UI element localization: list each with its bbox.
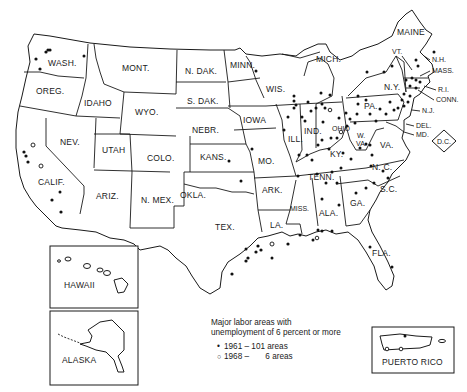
hawaii-label: HAWAII (64, 280, 95, 290)
legend-count: 101 areas (251, 342, 287, 351)
legend-item-1968: ○1968 – 6 areas (211, 352, 341, 362)
legend-separator: – (245, 342, 250, 351)
state-label-wi: WIS. (266, 84, 285, 94)
state-label-de: DEL. (416, 122, 432, 129)
state-label-ms: MISS. (290, 205, 309, 212)
state-label-mi: MICH. (316, 54, 341, 64)
state-label-tn: TENN. (308, 172, 335, 182)
legend-heading-line1: Major labor areas with (211, 318, 341, 328)
state-label-or: OREG. (36, 86, 64, 96)
state-label-pa: PA. (364, 101, 378, 111)
state-label-mn: MINN. (230, 60, 255, 70)
state-label-va: VA. (380, 140, 394, 150)
state-label-wy: WYO. (135, 107, 158, 117)
legend-count: 6 areas (251, 352, 292, 361)
state-label-ks: KANS. (200, 152, 227, 162)
legend-heading-line2: unemployment of 6 percent or more (211, 328, 341, 338)
state-label-sc: S.C. (380, 184, 397, 194)
state-label-ar: ARK. (262, 185, 283, 195)
state-label-ga: GA. (350, 198, 365, 208)
legend-item-1961: •1961 – 101 areas (211, 342, 341, 352)
state-label-wv: W. (357, 132, 365, 139)
state-label-id: IDAHO (84, 98, 112, 108)
state-label-md: MD. (416, 131, 429, 138)
state-label-ne: NEBR. (192, 125, 219, 135)
state-label-ct: CONN. (436, 96, 459, 103)
state-label-wa: WASH. (48, 58, 77, 68)
state-label-fl: FLA. (372, 248, 391, 258)
legend-separator: – (245, 352, 250, 361)
state-label-co: COLO. (147, 153, 174, 163)
state-label-nd: N. DAK. (185, 66, 217, 76)
legend-year: 1961 (224, 342, 242, 351)
state-label-sd: S. DAK. (187, 96, 219, 106)
legend-year: 1968 (224, 352, 242, 361)
state-label-al: ALA. (319, 208, 338, 218)
state-label-la: LA. (270, 220, 283, 230)
state-label-vt: VT. (392, 48, 402, 55)
state-label-mo: MO. (258, 156, 275, 166)
state-label-az: ARIZ. (96, 191, 119, 201)
legend: Major labor areas with unemployment of 6… (211, 318, 341, 362)
state-label-tx: TEX. (215, 222, 235, 232)
puerto-rico-inset: PUERTO RICO (372, 327, 454, 373)
state-label-in: IND. (304, 126, 322, 136)
state-label-me: MAINE (397, 27, 425, 37)
state-label-ca: CALIF. (38, 177, 65, 187)
state-label-ri: R.I. (438, 86, 449, 93)
state-label-nv: NEV. (60, 137, 80, 147)
state-label-ut: UTAH (102, 145, 125, 155)
state-label-ny: N.Y. (384, 82, 400, 92)
alaska-label: ALASKA (62, 355, 96, 365)
state-label-mt: MONT. (122, 63, 149, 73)
state-label-nj: N.J. (422, 107, 435, 114)
filled-dot-icon: • (217, 342, 224, 352)
state-label-ia: IOWA (243, 115, 266, 125)
alaska-inset: ALASKA (50, 311, 138, 385)
open-circle-icon: ○ (217, 352, 224, 362)
state-label-ky: KY. (330, 149, 343, 159)
state-label-nm: N. MEX. (141, 195, 174, 205)
puerto-rico-label: PUERTO RICO (382, 357, 443, 367)
state-label-ok: OKLA. (180, 190, 206, 200)
state-label-nh: N.H. (432, 56, 446, 63)
hawaii-inset: HAWAII (50, 246, 138, 308)
state-label-il: ILL. (288, 134, 303, 144)
state-label-ma: MASS. (432, 67, 454, 74)
state-label-dc: D.C. (437, 138, 451, 145)
